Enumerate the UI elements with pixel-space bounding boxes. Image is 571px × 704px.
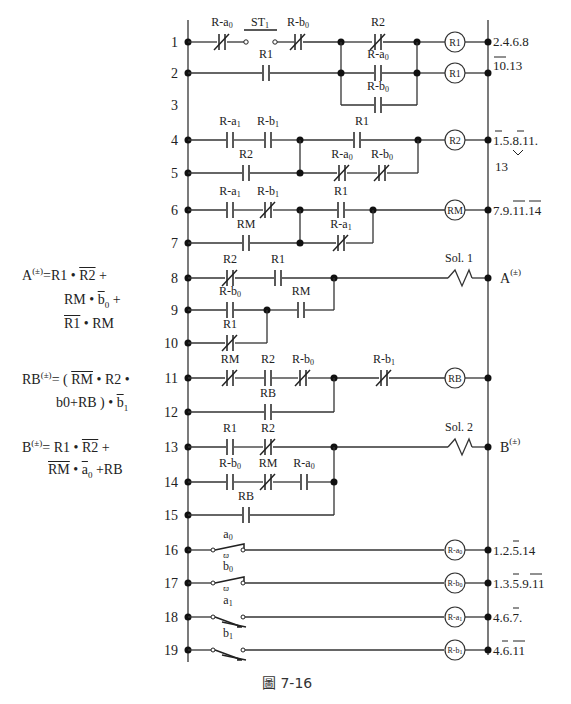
rung-15: RB bbox=[188, 489, 334, 523]
svg-text:ϖ: ϖ bbox=[223, 584, 229, 593]
svg-text:R-b0: R-b0 bbox=[219, 284, 241, 299]
equation-rb-line2: b0+RB ) • b1 bbox=[56, 396, 128, 413]
svg-text:6: 6 bbox=[171, 203, 178, 218]
svg-text:9: 9 bbox=[171, 303, 178, 318]
svg-text:A(±): A(±) bbox=[500, 267, 521, 286]
rung-9: R-b0 RM bbox=[188, 278, 334, 318]
svg-text:b1: b1 bbox=[223, 626, 233, 641]
svg-text:3: 3 bbox=[171, 98, 178, 113]
svg-text:11: 11 bbox=[165, 371, 178, 386]
equation-a-line3: R1 • RM bbox=[64, 317, 114, 331]
svg-text:Sol. 2: Sol. 2 bbox=[445, 420, 473, 434]
ladder-diagram: 1 2 3 4 5 6 7 8 9 10 11 12 13 14 15 16 1… bbox=[0, 0, 571, 704]
svg-text:13: 13 bbox=[164, 440, 178, 455]
svg-text:14: 14 bbox=[164, 475, 178, 490]
svg-text:R1: R1 bbox=[449, 68, 461, 79]
svg-text:RB: RB bbox=[238, 489, 254, 503]
svg-text:15: 15 bbox=[164, 508, 178, 523]
svg-text:1.2.5.14: 1.2.5.14 bbox=[493, 543, 536, 558]
figure-caption: 圖 7-16 bbox=[262, 672, 312, 692]
svg-text:B(±): B(±) bbox=[500, 436, 520, 455]
svg-text:19: 19 bbox=[164, 643, 178, 658]
svg-text:8: 8 bbox=[171, 271, 178, 286]
svg-text:2: 2 bbox=[171, 66, 178, 81]
svg-text:5: 5 bbox=[171, 166, 178, 181]
rung-numbers: 1 2 3 4 5 6 7 8 9 10 11 12 13 14 15 16 1… bbox=[164, 35, 178, 658]
rung-5: R2 R-a0 R-b0 bbox=[188, 140, 418, 181]
svg-text:R1: R1 bbox=[355, 114, 369, 128]
svg-text:R-b1: R-b1 bbox=[257, 114, 279, 129]
svg-text:R1: R1 bbox=[271, 252, 285, 266]
svg-text:4.6.7.: 4.6.7. bbox=[493, 610, 522, 625]
svg-text:R-a0: R-a0 bbox=[331, 147, 352, 162]
rung-13: R1 R2 Sol. 2 bbox=[188, 420, 492, 455]
svg-text:Sol. 1: Sol. 1 bbox=[445, 251, 473, 265]
svg-text:R1: R1 bbox=[223, 317, 237, 331]
rung-11: RM R2 R-b0 R-b1 RB bbox=[188, 352, 492, 388]
svg-text:1.3.5.9.11: 1.3.5.9.11 bbox=[493, 576, 545, 591]
svg-text:18: 18 bbox=[164, 610, 178, 625]
rung-7: RM R-a1 bbox=[188, 210, 373, 251]
svg-text:R-a1: R-a1 bbox=[219, 184, 240, 199]
equation-b: B(±)= R1 • R2 + bbox=[22, 439, 110, 455]
svg-text:R-a0: R-a0 bbox=[293, 456, 314, 471]
solenoid-2-icon bbox=[448, 439, 472, 455]
svg-text:7.9.11.14: 7.9.11.14 bbox=[493, 203, 542, 218]
svg-text:R-a0: R-a0 bbox=[211, 15, 232, 30]
svg-text:10.13: 10.13 bbox=[493, 58, 522, 73]
svg-text:RM: RM bbox=[221, 352, 240, 366]
svg-text:16: 16 bbox=[164, 543, 178, 558]
rung-2: R1 R-a0 R1 bbox=[188, 42, 492, 105]
svg-text:10: 10 bbox=[164, 336, 178, 351]
svg-text:b0: b0 bbox=[223, 559, 233, 574]
svg-text:R-b0: R-b0 bbox=[367, 79, 389, 94]
rung-8: R2 R1 Sol. 1 bbox=[188, 251, 492, 286]
svg-text:4: 4 bbox=[171, 133, 178, 148]
svg-text:RM: RM bbox=[447, 205, 463, 216]
svg-text:R1: R1 bbox=[223, 421, 237, 435]
svg-text:RB: RB bbox=[448, 373, 462, 384]
svg-text:ST1: ST1 bbox=[251, 15, 269, 30]
rung-18: a1 R-a1 bbox=[188, 593, 492, 627]
svg-text:7: 7 bbox=[171, 236, 178, 251]
equation-a: A(±)=R1 • R2 + bbox=[22, 267, 107, 283]
svg-text:a1: a1 bbox=[223, 593, 232, 608]
svg-text:R-a0: R-a0 bbox=[367, 47, 388, 62]
rung-1: R-a0 ST1 R-b0 R2 R1 bbox=[188, 15, 492, 52]
rung-4: R-a1 R-b1 R1 R2 bbox=[188, 114, 492, 150]
rung-10: R1 bbox=[188, 310, 267, 351]
contact-r-b0-no bbox=[375, 97, 381, 113]
rung-6: R-a1 R-b1 R1 RM bbox=[188, 184, 492, 220]
cross-references: 2.4.6.8 10.13 1.5.8.11. 13 7.9.11.14 A(±… bbox=[493, 34, 545, 658]
svg-text:2.4.6.8: 2.4.6.8 bbox=[493, 34, 529, 49]
svg-text:13: 13 bbox=[495, 159, 508, 174]
svg-text:R-b0: R-b0 bbox=[287, 15, 309, 30]
svg-text:1.5.8.11.: 1.5.8.11. bbox=[493, 133, 538, 148]
svg-text:1: 1 bbox=[171, 35, 178, 50]
svg-text:R2: R2 bbox=[449, 135, 461, 146]
svg-text:RM: RM bbox=[292, 284, 311, 298]
rung-3: R-b0 bbox=[341, 79, 417, 113]
svg-text:R2: R2 bbox=[223, 252, 237, 266]
svg-text:R2: R2 bbox=[371, 15, 385, 29]
equation-b-line2: RM • a0 +RB bbox=[48, 463, 123, 480]
svg-text:RB: RB bbox=[260, 386, 276, 400]
rung-19: b1 R-b1 bbox=[188, 626, 492, 660]
rung-14: R-b0 RM R-a0 bbox=[188, 447, 338, 515]
svg-text:R-b1: R-b1 bbox=[373, 352, 395, 367]
svg-text:R-b0: R-b0 bbox=[292, 352, 314, 367]
svg-text:R-a1: R-a1 bbox=[330, 217, 351, 232]
svg-text:R1: R1 bbox=[259, 47, 273, 61]
contact-r1-no bbox=[263, 65, 269, 81]
solenoid-1-icon bbox=[448, 270, 472, 286]
svg-text:R-b0: R-b0 bbox=[371, 147, 393, 162]
svg-text:R2: R2 bbox=[261, 421, 275, 435]
equation-a-line2: RM • b0 + bbox=[64, 293, 121, 310]
svg-text:RM: RM bbox=[259, 456, 278, 470]
svg-text:R-a1: R-a1 bbox=[219, 114, 240, 129]
svg-text:12: 12 bbox=[164, 405, 178, 420]
svg-text:R-b0: R-b0 bbox=[219, 456, 241, 471]
rung-16: ϖ a0 R-a0 bbox=[188, 527, 492, 560]
rung-12: RB bbox=[188, 378, 334, 420]
svg-text:R2: R2 bbox=[239, 147, 253, 161]
